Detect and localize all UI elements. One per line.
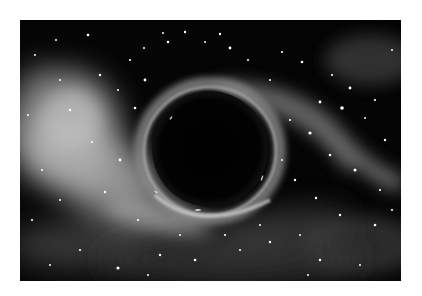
space-image (20, 20, 401, 281)
event-horizon (152, 91, 268, 207)
black-hole-illustration (20, 20, 401, 281)
